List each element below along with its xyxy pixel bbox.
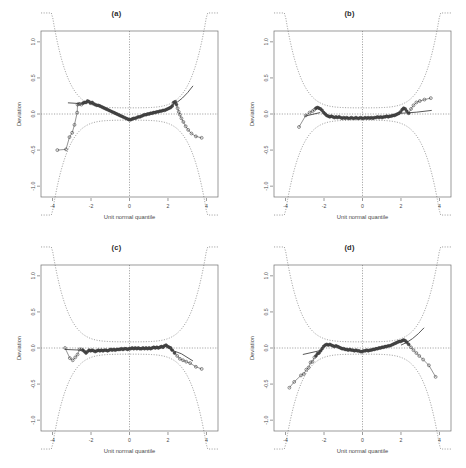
data-point [288, 386, 291, 389]
x-tick-label: -4 [50, 437, 55, 443]
panel-a-plot: -4-2024-1.0-0.50.00.51.0Unit normal quan… [0, 0, 233, 234]
y-tick-label: 1.0 [30, 272, 36, 279]
x-tick-label: 2 [400, 437, 403, 443]
panel-c: (c) -4-2024-1.0-0.50.00.51.0Unit normal … [0, 234, 233, 468]
x-tick-label: 4 [438, 437, 441, 443]
x-tick-label: -4 [283, 203, 288, 209]
fitted-line-left [65, 349, 81, 350]
y-axis-title: Deviation [249, 102, 255, 126]
y-tick-label: 1.0 [263, 272, 269, 279]
y-tick-label: -1.0 [263, 182, 269, 191]
y-tick-label: 0.5 [263, 74, 269, 81]
x-tick-label: -2 [89, 203, 94, 209]
x-axis-title: Unit normal quantile [104, 448, 156, 454]
y-tick-label: -0.5 [30, 380, 36, 389]
y-tick-label: 1.0 [263, 38, 269, 45]
panel-d: (d) -4-2024-1.0-0.50.00.51.0Unit normal … [233, 234, 466, 468]
x-tick-label: -4 [50, 203, 55, 209]
x-tick-label: 0 [128, 203, 131, 209]
y-tick-label: 1.0 [30, 38, 36, 45]
y-tick-label: 0.5 [263, 308, 269, 315]
y-tick-label: -0.5 [30, 146, 36, 155]
y-tick-label: -1.0 [30, 182, 36, 191]
y-tick-label: 0.5 [30, 308, 36, 315]
data-point [173, 352, 176, 355]
x-tick-label: -2 [89, 437, 94, 443]
x-tick-label: 0 [361, 437, 364, 443]
y-tick-label: 0.5 [30, 74, 36, 81]
x-tick-label: 4 [205, 437, 208, 443]
y-tick-label: -0.5 [263, 380, 269, 389]
y-tick-label: 0.0 [30, 110, 36, 117]
x-tick-label: 0 [361, 203, 364, 209]
x-tick-label: -2 [322, 437, 327, 443]
x-axis-title: Unit normal quantile [104, 214, 156, 220]
x-tick-label: -4 [283, 437, 288, 443]
panel-a: (a) -4-2024-1.0-0.50.00.51.0Unit normal … [0, 0, 233, 234]
y-axis-title: Deviation [249, 336, 255, 360]
figure-canvas: (a) -4-2024-1.0-0.50.00.51.0Unit normal … [0, 0, 466, 468]
y-tick-label: 0.0 [263, 344, 269, 351]
x-tick-label: 2 [400, 203, 403, 209]
x-tick-label: 2 [167, 203, 170, 209]
panel-b-plot: -4-2024-1.0-0.50.00.51.0Unit normal quan… [233, 0, 466, 234]
data-point [298, 126, 301, 129]
x-tick-label: 0 [128, 437, 131, 443]
x-tick-label: 4 [438, 203, 441, 209]
fitted-line-right [401, 328, 424, 345]
x-axis-title: Unit normal quantile [337, 448, 389, 454]
y-axis-title: Deviation [16, 336, 22, 360]
y-tick-label: -1.0 [263, 416, 269, 425]
y-tick-label: -0.5 [263, 146, 269, 155]
data-point [407, 343, 410, 346]
y-tick-label: 0.0 [30, 344, 36, 351]
y-axis-title: Deviation [16, 102, 22, 126]
panel-b: (b) -4-2024-1.0-0.50.00.51.0Unit normal … [233, 0, 466, 234]
panel-c-plot: -4-2024-1.0-0.50.00.51.0Unit normal quan… [0, 234, 233, 468]
y-tick-label: 0.0 [263, 110, 269, 117]
x-tick-label: 2 [167, 437, 170, 443]
x-axis-title: Unit normal quantile [337, 214, 389, 220]
y-tick-label: -1.0 [30, 416, 36, 425]
panel-d-plot: -4-2024-1.0-0.50.00.51.0Unit normal quan… [233, 234, 466, 468]
x-tick-label: -2 [322, 203, 327, 209]
x-tick-label: 4 [205, 203, 208, 209]
